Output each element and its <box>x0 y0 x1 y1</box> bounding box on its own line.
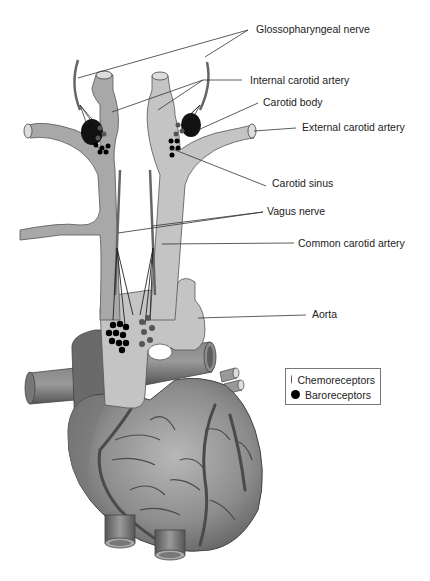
baroreceptor-dot-icon <box>291 390 300 399</box>
legend: Chemoreceptors Baroreceptors <box>285 368 381 405</box>
label-aorta: Aorta <box>312 308 337 320</box>
heart <box>68 378 263 551</box>
label-glossopharyngeal-nerve: Glossopharyngeal nerve <box>256 23 370 35</box>
label-internal-carotid-artery: Internal carotid artery <box>250 74 349 86</box>
label-common-carotid-artery: Common carotid artery <box>298 237 405 249</box>
legend-label: Baroreceptors <box>305 389 371 401</box>
label-carotid-sinus: Carotid sinus <box>272 177 333 189</box>
chemoreceptor-dot-icon <box>291 375 292 384</box>
label-vagus-nerve: Vagus nerve <box>267 205 325 217</box>
legend-item-baroreceptors: Baroreceptors <box>291 387 375 402</box>
label-carotid-body: Carotid body <box>263 96 323 108</box>
left-carotid <box>20 71 120 320</box>
anatomy-illustration <box>0 0 430 581</box>
legend-item-chemoreceptors: Chemoreceptors <box>291 372 375 387</box>
label-external-carotid-artery: External carotid artery <box>302 121 405 133</box>
legend-label: Chemoreceptors <box>297 374 375 386</box>
